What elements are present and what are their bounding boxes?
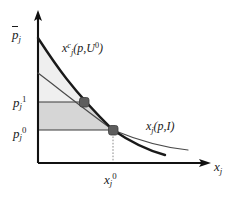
xaxis-subscript: j <box>220 166 222 176</box>
x0-superscript: 0 <box>112 171 116 181</box>
ordinary-demand-label: xj(p,I) <box>146 120 175 135</box>
p0-superscript: 0 <box>22 125 26 135</box>
hicks-args-close: ) <box>99 41 103 55</box>
marker-upper-point <box>80 98 90 108</box>
x-axis-title: xj <box>214 160 222 176</box>
plot-canvas <box>0 0 236 205</box>
marsh-args-close: ) <box>171 119 175 133</box>
x-tick-label-x0: xj0 <box>104 172 117 188</box>
pbar-overbar-group: p <box>12 28 19 41</box>
hicks-args: (p,U <box>73 41 95 55</box>
p1-superscript: 1 <box>22 94 26 104</box>
pbar-base: p <box>12 27 19 42</box>
overbar-icon <box>12 26 18 27</box>
y-tick-label-pbar: pj <box>12 28 21 44</box>
y-tick-label-p1: pj1 <box>13 95 26 111</box>
y-tick-label-p0: pj0 <box>13 126 26 142</box>
lower-surplus-area <box>38 102 113 130</box>
marker-lower-point <box>109 126 119 136</box>
compensated-demand-label: xcj(p,U0) <box>62 42 103 57</box>
marsh-args: (p,I <box>154 119 171 133</box>
demand-curve-figure: pj pj1 pj0 xcj(p,U0) xj(p,I) xj0 xj <box>0 0 236 205</box>
